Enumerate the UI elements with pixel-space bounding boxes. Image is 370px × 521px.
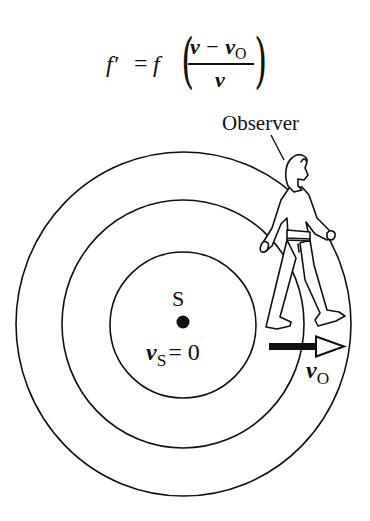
- formula-close-paren: ): [254, 30, 267, 90]
- formula-equals: =: [134, 51, 148, 75]
- observer-velocity-symbol: v: [306, 357, 317, 383]
- source-velocity-sub: S: [157, 351, 167, 370]
- numerator-vo-sub: O: [235, 45, 246, 62]
- observer-velocity-arrow-icon: [269, 337, 344, 357]
- numerator-minus: −: [206, 34, 218, 59]
- formula-fraction: v − vO v: [188, 36, 254, 58]
- observer-label: Observer: [222, 113, 299, 134]
- formula-lhs: f′: [106, 52, 118, 76]
- numerator-v: v: [190, 34, 200, 59]
- source-velocity-symbol: v: [146, 339, 157, 365]
- observer-velocity-sub: O: [317, 369, 329, 388]
- observer-velocity-label: vO: [306, 358, 329, 382]
- doppler-diagram: f′ = f ( v − vO v ) Observer S vS= 0 vO: [0, 0, 370, 521]
- formula-numerator: v − vO: [190, 36, 256, 58]
- formula-fraction-bar: [188, 63, 254, 65]
- observer-leader-line: [271, 135, 284, 160]
- formula-denominator: v: [215, 69, 225, 91]
- source-dot-icon: [177, 316, 190, 329]
- formula-factor: f: [153, 52, 160, 76]
- numerator-vo: v: [225, 34, 235, 59]
- source-velocity-eq: = 0: [168, 339, 200, 365]
- source-velocity-label: vS= 0: [146, 340, 200, 364]
- source-label: S: [172, 288, 184, 310]
